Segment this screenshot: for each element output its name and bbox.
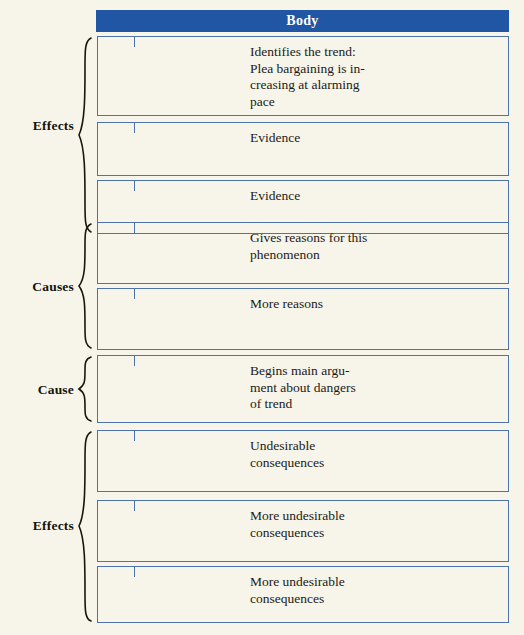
box-left-wall [97,232,135,284]
paragraph-box-text: More undesirable consequences [250,508,501,541]
group-brace [76,222,94,350]
box-left-wall [97,298,135,350]
paragraph-box[interactable]: Evidence [97,122,509,176]
box-left-wall [97,576,135,623]
paragraph-box[interactable]: Gives reasons for this phenomenon [97,222,509,284]
box-left-wall [97,440,135,492]
paragraph-box-text: Identifies the trend: Plea bargaining is… [250,44,501,110]
box-left-wall [97,365,135,423]
paragraph-box[interactable]: More undesirable consequences [97,500,509,562]
essay-structure-diagram: Body Identifies the trend: Plea bargaini… [0,0,524,635]
paragraph-box-text: More reasons [250,296,501,313]
paragraph-box-text: Undesirable consequences [250,438,501,471]
body-section-header: Body [96,10,509,32]
group-label-causes: Causes [0,279,74,295]
paragraph-box-text: Evidence [250,130,501,147]
group-brace [76,36,94,234]
group-label-cause: Cause [0,382,74,398]
box-left-wall [97,510,135,562]
group-brace [76,355,94,423]
paragraph-box-text: Gives reasons for this phenomenon [250,230,501,263]
box-left-wall [97,132,135,176]
paragraph-box[interactable]: Identifies the trend: Plea bargaining is… [97,36,509,116]
paragraph-box-text: More undesirable consequences [250,574,501,607]
paragraph-box[interactable]: Begins main argu- ment about dangers of … [97,355,509,423]
paragraph-box[interactable]: Undesirable consequences [97,430,509,492]
group-label-effects-2: Effects [0,518,74,534]
paragraph-box-text: Begins main argu- ment about dangers of … [250,363,501,413]
paragraph-box[interactable]: More undesirable consequences [97,566,509,623]
paragraph-box-text: Evidence [250,188,501,205]
group-label-effects-1: Effects [0,118,74,134]
paragraph-box[interactable]: More reasons [97,288,509,350]
group-brace [76,430,94,623]
box-left-wall [97,46,135,116]
